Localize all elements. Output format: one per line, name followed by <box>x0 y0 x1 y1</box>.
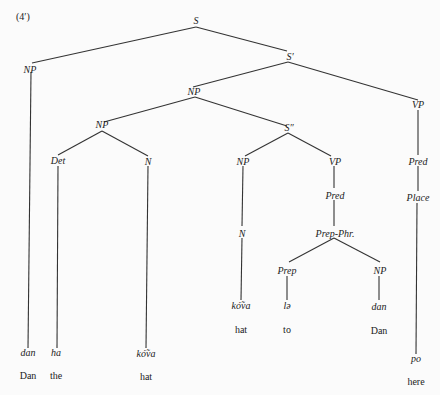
node-vp-main: VP <box>412 99 424 110</box>
node-np-relative: NP <box>236 156 250 167</box>
leaf-gloss: hat <box>140 371 152 382</box>
leaf-word: kó̃va <box>232 300 251 311</box>
node-n-relative: N <box>238 228 247 239</box>
node-s: S <box>194 15 199 26</box>
syntax-tree: (4′) S NP S′ NP NP Det N S″ NP N VP Pred… <box>0 0 440 395</box>
figure-label: (4′) <box>16 11 30 23</box>
leaf-gloss: Dan <box>371 325 388 336</box>
leaf-word: ha <box>51 347 61 358</box>
node-np-subject: NP <box>23 64 37 75</box>
tree-nodes: S NP S′ NP NP Det N S″ NP N VP Pred Prep… <box>23 15 430 276</box>
tree-glosses: Dan the hat hat to Dan here <box>20 324 425 387</box>
node-pred-relative: Pred <box>324 190 345 201</box>
tree-leaves: dan ha kó̃va kó̃va lə dan po <box>21 300 422 364</box>
node-np-inner: NP <box>95 119 109 130</box>
node-place: Place <box>406 192 430 203</box>
node-vp-relative: VP <box>329 156 341 167</box>
leaf-gloss: Dan <box>20 370 37 381</box>
leaf-gloss: to <box>283 324 291 335</box>
leaf-word: kó̃va <box>137 348 156 359</box>
node-s-double-prime: S″ <box>284 122 294 133</box>
leaf-word: po <box>410 353 421 364</box>
node-prep: Prep <box>276 265 296 276</box>
leaf-word: dan <box>21 347 36 358</box>
node-det: Det <box>50 155 66 166</box>
node-prep-phrase: Prep-Phr. <box>315 228 355 239</box>
leaf-gloss: the <box>50 370 63 381</box>
leaf-gloss: here <box>407 376 425 387</box>
node-np-prep: NP <box>373 265 387 276</box>
node-s-prime: S′ <box>286 51 294 62</box>
leaf-word: lə <box>283 300 291 311</box>
leaf-word: dan <box>372 301 387 312</box>
node-np-object: NP <box>187 86 201 97</box>
node-pred-main: Pred <box>407 156 428 167</box>
tree-edges <box>28 27 418 354</box>
node-n-head: N <box>144 156 153 167</box>
leaf-gloss: hat <box>235 324 247 335</box>
